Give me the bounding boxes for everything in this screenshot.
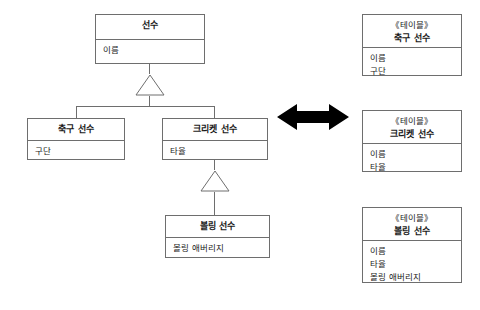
generalization-drop-soccer: [76, 106, 77, 118]
table-box-bowling[interactable]: 《테이블》 볼링 선수 이름 타율 볼링 애버리지: [362, 207, 462, 283]
table-cricket-header: 《테이블》 크리켓 선수: [363, 111, 461, 143]
generalization-line-cricket-stub: [214, 160, 215, 170]
table-soccer-header: 《테이블》 축구 선수: [363, 15, 461, 47]
class-box-cricket-player[interactable]: 크리켓 선수 타율: [162, 118, 268, 160]
table-bowling-column-1: 타율: [370, 258, 461, 271]
table-bowling-header: 《테이블》 볼링 선수: [363, 208, 461, 240]
table-soccer-name: 축구 선수: [394, 33, 429, 43]
table-soccer-column-0: 이름: [370, 52, 461, 65]
table-bowling-stereotype: 《테이블》: [365, 212, 459, 224]
generalization-line-player-down: [149, 96, 150, 106]
table-soccer-columns: 이름 구단: [363, 47, 461, 77]
class-box-player[interactable]: 선수 이름: [95, 14, 205, 64]
class-player-attribute-0: 이름: [103, 44, 204, 57]
table-cricket-stereotype: 《테이블》: [365, 115, 459, 127]
class-box-soccer-player[interactable]: 축구 선수 구단: [27, 118, 125, 160]
class-bowling-player-attribute-0: 볼링 애버리지: [173, 242, 269, 255]
class-cricket-player-attribute-0: 타율: [170, 145, 267, 158]
class-soccer-player-name: 축구 선수: [28, 119, 124, 140]
class-player-attributes: 이름: [96, 39, 204, 64]
class-soccer-player-attributes: 구단: [28, 140, 124, 160]
table-cricket-column-1: 타율: [370, 161, 461, 174]
class-soccer-player-attribute-0: 구단: [35, 145, 124, 158]
table-bowling-name: 볼링 선수: [394, 226, 429, 236]
table-box-soccer[interactable]: 《테이블》 축구 선수 이름 구단: [362, 14, 462, 76]
class-bowling-player-name: 볼링 선수: [166, 216, 269, 237]
table-bowling-column-2: 볼링 애버리지: [370, 271, 461, 284]
class-box-bowling-player[interactable]: 볼링 선수 볼링 애버리지: [165, 215, 270, 258]
table-bowling-column-0: 이름: [370, 245, 461, 258]
table-cricket-name: 크리켓 선수: [390, 129, 433, 139]
table-cricket-column-0: 이름: [370, 148, 461, 161]
class-player-name: 선수: [96, 15, 204, 39]
diagram-canvas: 선수 이름 축구 선수 구단 크리켓 선수 타율: [0, 0, 480, 310]
generalization-line-top-stub: [149, 64, 150, 74]
class-cricket-player-name: 크리켓 선수: [163, 119, 267, 140]
generalization-branch-bar: [76, 106, 215, 107]
generalization-triangle-cricket: [200, 170, 230, 192]
mapping-double-arrow-icon: [277, 101, 349, 133]
generalization-triangle-player: [135, 74, 165, 96]
class-bowling-player-attributes: 볼링 애버리지: [166, 237, 269, 258]
table-cricket-columns: 이름 타율: [363, 143, 461, 173]
generalization-line-bowling: [214, 192, 215, 215]
table-soccer-column-1: 구단: [370, 65, 461, 78]
generalization-drop-cricket: [214, 106, 215, 118]
table-bowling-columns: 이름 타율 볼링 애버리지: [363, 240, 461, 284]
table-box-cricket[interactable]: 《테이블》 크리켓 선수 이름 타율: [362, 110, 462, 172]
class-cricket-player-attributes: 타율: [163, 140, 267, 160]
table-soccer-stereotype: 《테이블》: [365, 19, 459, 31]
